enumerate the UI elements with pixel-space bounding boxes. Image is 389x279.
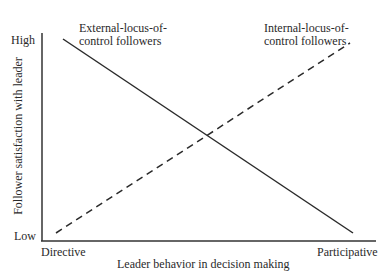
internal-locus-line (56, 43, 350, 233)
x-tick-participative: Participative (317, 246, 378, 259)
y-axis-title: Follower satisfaction with leader (11, 57, 26, 215)
internal-series-label-2: control followers (264, 35, 346, 48)
x-tick-directive: Directive (41, 246, 86, 259)
x-axis-title: Leader behavior in decision making (117, 258, 290, 271)
external-series-label-2: control followers (79, 35, 161, 48)
external-locus-line (63, 39, 353, 233)
y-tick-low: Low (14, 230, 36, 243)
y-tick-high: High (11, 34, 35, 47)
